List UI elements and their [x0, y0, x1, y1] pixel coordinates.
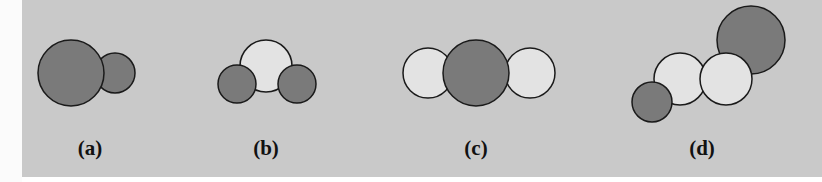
right-light-atom: [505, 48, 555, 98]
panel-label-d: (d): [689, 136, 715, 161]
panel-label-a: (a): [78, 136, 103, 161]
panel-label-b: (b): [253, 136, 279, 161]
small-dark-atom: [632, 82, 672, 122]
left-dark-atom: [218, 65, 256, 103]
molecule-b: [218, 40, 316, 103]
large-dark-atom: [38, 40, 104, 106]
molecule-c: [403, 40, 555, 106]
right-dark-atom: [278, 65, 316, 103]
panel-label-c: (c): [464, 136, 487, 161]
molecule-a: [38, 40, 135, 106]
central-dark-atom: [443, 40, 509, 106]
light-atom-1: [700, 53, 752, 105]
molecule-d: [632, 6, 785, 122]
